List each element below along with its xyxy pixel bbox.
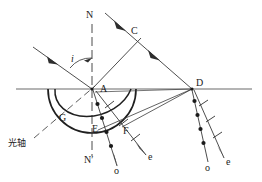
e-ray-D-tick-3	[213, 132, 222, 138]
refracted-extraordinary-ray-D	[194, 90, 224, 158]
e-ray-D-tick-1	[199, 100, 208, 106]
incident-ray-to-A	[33, 47, 92, 89]
label-point-G: G	[59, 113, 66, 123]
point-D-marker	[190, 87, 193, 90]
o-ray-A-dot-1	[95, 102, 99, 106]
o-ray-A-dot-3	[104, 130, 108, 134]
point-A-marker	[90, 87, 93, 90]
o-ray-A-dot-2	[100, 116, 104, 120]
o-ray-D-dot-2	[195, 113, 199, 117]
extraordinary-wavelet-arc	[55, 89, 131, 116]
optics-diagram-figure: N N′ i C A D G E F 光轴 o e o e	[0, 0, 262, 182]
o-ray-A-dot-4	[109, 144, 113, 148]
label-point-E: E	[92, 124, 98, 134]
label-ray-e-outer: e	[226, 157, 230, 167]
o-ray-D-dot-4	[201, 141, 205, 145]
label-point-F: F	[123, 126, 129, 136]
label-ray-e-inner: e	[148, 152, 152, 162]
label-normal-down: N′	[84, 155, 93, 165]
o-ray-D-dot-3	[198, 127, 202, 131]
incident-ray-to-A-arrow	[47, 57, 58, 65]
e-ray-D-tick-2	[206, 116, 215, 122]
label-normal-up: N	[86, 10, 93, 20]
label-angle-of-incidence: i	[71, 54, 74, 64]
label-point-A: A	[100, 84, 107, 94]
wavefront-AC	[92, 38, 141, 89]
label-ray-o-inner: o	[114, 166, 119, 176]
label-point-D: D	[196, 78, 203, 88]
label-ray-o-outer: o	[205, 163, 210, 173]
label-point-C: C	[131, 26, 138, 36]
label-optic-axis: 光轴	[8, 139, 26, 148]
o-ray-D-dot-1	[192, 99, 196, 103]
